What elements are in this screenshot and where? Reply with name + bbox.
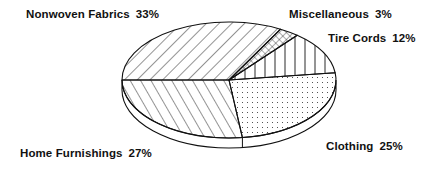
label-clothing: Clothing25% [326,140,403,152]
label-nonwoven-fabrics: Nonwoven Fabrics33% [26,8,159,20]
label-miscellaneous: Miscellaneous3% [289,8,392,20]
label-percent: 12% [392,32,415,44]
label-percent: 3% [375,8,392,20]
label-text: Nonwoven Fabrics [26,8,130,20]
label-text: Clothing [326,140,373,152]
label-text: Home Furnishings [20,147,123,159]
pie-slice-home-furnishings [122,80,242,138]
label-percent: 27% [129,147,152,159]
pie-slice-clothing [229,73,336,138]
label-percent: 33% [136,8,159,20]
label-home-furnishings: Home Furnishings27% [20,147,152,159]
label-tire-cords: Tire Cords12% [328,32,416,44]
label-percent: 25% [379,140,402,152]
label-text: Miscellaneous [289,8,369,20]
label-text: Tire Cords [328,32,386,44]
